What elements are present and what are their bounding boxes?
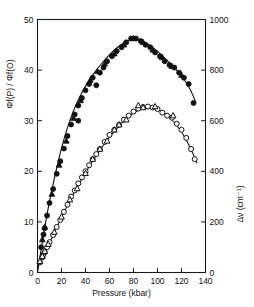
fitted-curve-lower	[38, 39, 196, 272]
data-point-0	[54, 224, 59, 229]
x-tick-label-120: 120	[174, 276, 188, 286]
data-point-2	[186, 82, 191, 87]
data-point-0	[179, 127, 184, 132]
data-point-2	[54, 171, 59, 176]
data-point-2	[83, 88, 88, 93]
data-point-0	[87, 163, 92, 168]
y-tick-label-right-400: 400	[210, 166, 224, 176]
data-point-2	[65, 133, 70, 138]
x-tick-label-0: 0	[35, 276, 40, 286]
y-tick-label-left-10: 10	[24, 217, 34, 227]
data-point-2	[69, 122, 74, 127]
data-point-0	[192, 157, 197, 162]
x-tick-label-60: 60	[105, 276, 115, 286]
data-point-2	[76, 103, 81, 108]
y-axis-title-left: Φf(P) / Φf(O)	[5, 59, 15, 108]
data-point-0	[184, 135, 189, 140]
data-point-0	[107, 132, 112, 137]
y-tick-label-left-40: 40	[24, 65, 34, 75]
y-tick-label-left-50: 50	[24, 15, 34, 25]
data-point-2	[191, 100, 196, 105]
data-point-1	[135, 102, 141, 107]
data-point-0	[65, 202, 70, 207]
data-point-2	[45, 213, 50, 218]
pressure-fluorescence-chart: 0204060801001201400102030405002004006008…	[0, 0, 254, 307]
y-axis-title-right: Δν (cm⁻¹)	[235, 185, 245, 222]
y-tick-label-right-200: 200	[210, 217, 224, 227]
x-tick-label-80: 80	[129, 276, 139, 286]
data-point-0	[76, 181, 81, 186]
y-tick-label-right-1000: 1000	[210, 15, 229, 25]
y-tick-label-right-800: 800	[210, 65, 224, 75]
data-point-2	[41, 232, 46, 237]
figure-container: 0204060801001201400102030405002004006008…	[0, 0, 254, 307]
y-tick-label-left-20: 20	[24, 166, 34, 176]
x-tick-label-140: 140	[198, 276, 212, 286]
x-axis-title: Pressure (kbar)	[92, 288, 151, 298]
y-tick-label-left-0: 0	[29, 268, 34, 278]
data-point-0	[165, 113, 170, 118]
data-point-2	[94, 83, 99, 88]
y-tick-label-right-0: 0	[210, 268, 215, 278]
y-tick-label-right-600: 600	[210, 116, 224, 126]
x-tick-label-40: 40	[81, 276, 91, 286]
data-point-0	[189, 147, 194, 152]
data-point-2	[47, 200, 52, 205]
data-point-0	[145, 104, 150, 109]
data-point-0	[131, 109, 136, 114]
data-point-0	[174, 121, 179, 126]
data-point-0	[160, 110, 165, 115]
data-point-0	[61, 209, 66, 214]
x-tick-label-100: 100	[150, 276, 164, 286]
x-tick-label-20: 20	[57, 276, 67, 286]
data-point-2	[51, 187, 56, 192]
data-point-2	[61, 146, 66, 151]
y-tick-label-left-30: 30	[24, 116, 34, 126]
data-point-0	[94, 152, 99, 157]
data-point-2	[39, 245, 44, 250]
